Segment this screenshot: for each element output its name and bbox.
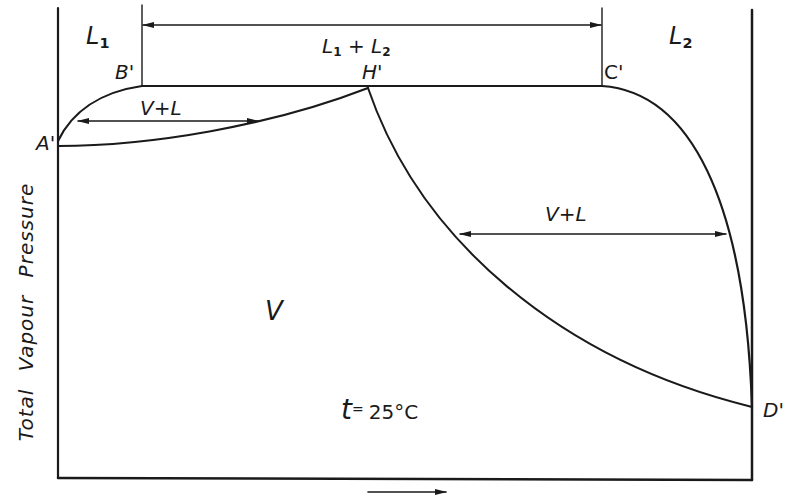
region-l1-label: L1 bbox=[86, 24, 109, 50]
region-v-plus-l-right-label: V+L bbox=[545, 204, 587, 224]
temperature-value: 25°C bbox=[369, 400, 418, 424]
y-axis-label: Total Vapour Pressure bbox=[14, 183, 38, 441]
temperature-equals: = bbox=[352, 401, 364, 417]
temperature-label: t= 25°C bbox=[341, 393, 418, 426]
region-v-label: V bbox=[265, 298, 283, 324]
liquid-curve-c-d bbox=[602, 86, 752, 407]
point-b-prime-label: B' bbox=[115, 62, 134, 82]
vapour-curve-h-d bbox=[368, 88, 752, 407]
region-l2-label: L2 bbox=[669, 24, 692, 50]
point-a-prime-label: A' bbox=[36, 133, 55, 153]
point-d-prime-label: D' bbox=[763, 400, 784, 420]
point-c-prime-label: C' bbox=[604, 62, 623, 82]
point-h-prime-label: H' bbox=[362, 62, 383, 82]
liquid-curve-a-b bbox=[58, 86, 142, 141]
region-v-plus-l-left-label: V+L bbox=[140, 98, 182, 118]
bottom-axis bbox=[58, 478, 752, 480]
temperature-symbol: t bbox=[341, 393, 352, 426]
region-l1-l2-label: L1 + L2 bbox=[322, 36, 391, 58]
